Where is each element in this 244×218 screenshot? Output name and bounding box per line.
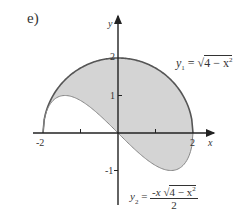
region-plot: -2 2 x y 2 1 -1: [0, 0, 244, 218]
eq2-subscript: 2: [135, 198, 139, 206]
x-tick-label-2: 2: [190, 137, 195, 148]
y-axis-label: y: [107, 18, 113, 29]
y-tick-label-2: 2: [110, 51, 115, 62]
equation-y1: y1 = √4 − x2: [176, 56, 232, 72]
panel-label: e): [27, 10, 39, 27]
equation-y2: y2 = -x √4 − x2 2: [130, 185, 198, 211]
eq2-fraction: -x √4 − x2 2: [150, 185, 198, 211]
y-tick-label-1: 1: [110, 90, 115, 101]
x-axis-label: x: [207, 137, 213, 148]
x-tick-label-neg2: -2: [36, 137, 44, 148]
eq1-radicand: 4 − x2: [204, 55, 232, 70]
y-tick-label-neg1: -1: [105, 165, 113, 176]
eq1-subscript: 1: [181, 64, 185, 72]
